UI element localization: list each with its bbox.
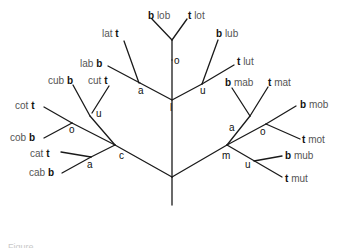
leaf-cut: cut t [88,76,107,86]
leaf-word: mot [308,134,325,145]
leaf-lot: t lot [188,11,205,21]
leaf-word: cob [10,132,26,143]
leaf-word: mob [309,99,328,110]
edge-co-cot [44,107,72,123]
leaf-lob: b lob [148,11,170,21]
leaf-lut: t lut [237,57,254,67]
leaf-word: cut [88,75,101,86]
edge-mo-mob [266,106,296,124]
leaf-letter: b [96,58,102,69]
edge-ca-cat [61,152,91,157]
leaf-lab: lab b [80,59,102,69]
leaf-word: cat [30,148,43,159]
node-o-cot-cob: o [69,125,75,135]
leaf-mut: t mut [285,174,308,184]
figure-caption-partial: Figure [8,243,34,248]
node-a-mab-mat: a [229,123,235,133]
edge-l-u [172,84,202,100]
leaf-letter: b [285,150,291,161]
edge-co-cob [44,123,72,138]
leaf-word: mut [291,173,308,184]
leaf-mob: b mob [300,100,328,110]
leaf-mub: b mub [285,151,313,161]
leaf-letter: t [237,56,240,67]
node-o-mob-mot: o [260,127,266,137]
node-a-cat-cab: a [87,160,93,170]
node-a-lab-lat: a [138,86,144,96]
leaf-cot: cot t [15,101,34,111]
node-u-mub-mut: u [245,160,251,170]
edge-lo-lob [152,19,172,40]
leaf-letter: b [300,99,306,110]
edge-la-lab [108,66,140,83]
tree-diagram [0,0,344,248]
edge-trunk-m [172,145,227,177]
leaf-letter: t [104,75,107,86]
leaf-cab: cab b [29,168,54,178]
leaf-word: lat [102,28,113,39]
edge-c-a [91,145,115,157]
edge-ma-mat [250,87,268,116]
edge-mo-mot [266,124,300,139]
leaf-mat: t mat [268,78,291,88]
leaf-word: cub [48,75,64,86]
leaf-word: lut [243,56,254,67]
leaf-word: mab [234,77,253,88]
leaf-word: cab [29,167,45,178]
leaf-letter: b [29,132,35,143]
leaf-letter: t [46,148,49,159]
node-m: m [222,151,230,161]
leaf-letter: t [31,100,34,111]
leaf-letter: t [302,134,305,145]
node-l: l [170,103,172,113]
leaf-lub: b lub [216,29,238,39]
edge-ma-mab [232,88,250,116]
leaf-word: lub [225,28,238,39]
leaf-word: mub [294,150,313,161]
edge-lo-lot [172,19,187,40]
leaf-word: lot [194,10,205,21]
edge-c-u [90,116,115,145]
leaf-cat: cat t [30,149,49,159]
edge-la-lat [124,41,139,83]
leaf-word: mat [274,77,291,88]
leaf-cob: cob b [10,133,35,143]
edge-l-a [140,83,172,100]
edge-lu-lub [202,40,218,84]
leaf-letter: t [115,28,118,39]
leaf-letter: b [148,10,154,21]
edge-mu-mub [254,156,282,161]
leaf-letter: b [225,77,231,88]
node-u-lub-lut: u [200,86,206,96]
edge-cu-cub [73,85,90,116]
leaf-letter: b [48,167,54,178]
leaf-mab: b mab [225,78,253,88]
leaf-mot: t mot [302,135,325,145]
leaf-letter: b [216,28,222,39]
edge-c-o [72,123,115,145]
leaf-word: cot [15,100,28,111]
leaf-word: lob [157,10,170,21]
leaf-letter: t [188,10,191,21]
node-u-cub-cut: u [96,109,102,119]
leaf-letter: b [67,75,73,86]
node-o-lob-lot: o [174,56,180,66]
leaf-letter: t [268,77,271,88]
leaf-cub: cub b [48,76,73,86]
leaf-word: lab [80,58,93,69]
node-c: c [119,151,124,161]
leaf-lat: lat t [102,29,119,39]
leaf-letter: t [285,173,288,184]
